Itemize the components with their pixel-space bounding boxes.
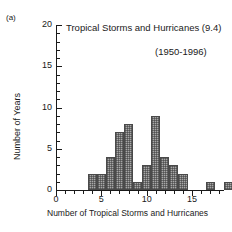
x-tick-8 [129,191,130,194]
y-tick-5 [57,149,62,150]
histogram-bar [206,182,215,190]
y-tick-14 [57,75,60,76]
x-tick-1 [65,191,66,194]
panel-label: (a) [6,13,16,22]
y-tick-7 [57,132,60,133]
histogram-bar [169,165,178,190]
x-tick-16 [201,191,202,194]
x-tick-label-5: 5 [91,194,111,204]
histogram-bar [115,132,124,190]
x-tick-12 [165,191,166,194]
y-tick-8 [57,124,60,125]
x-tick-label-15: 15 [182,194,202,204]
y-axis-title: Number of Years [12,93,22,160]
y-tick-20 [57,25,62,26]
histogram-figure: (a) Tropical Storms and Hurricanes (9.4)… [0,0,232,232]
x-tick-11 [156,191,157,194]
x-axis-line [56,190,224,191]
y-tick-13 [57,83,60,84]
y-tick-label-10: 10 [26,102,52,112]
y-tick-label-5: 5 [26,143,52,153]
y-tick-10 [57,108,62,109]
y-tick-2 [57,174,60,175]
x-tick-2 [74,191,75,194]
y-tick-9 [57,116,60,117]
histogram-bar [142,165,151,190]
histogram-bar [151,116,160,190]
histogram-bar [124,124,133,190]
y-tick-4 [57,157,60,158]
y-tick-12 [57,91,60,92]
y-tick-17 [57,50,60,51]
x-tick-17 [210,191,211,194]
y-tick-15 [57,66,62,67]
y-tick-16 [57,58,60,59]
y-tick-6 [57,141,60,142]
histogram-bar [224,182,232,190]
histogram-bar [133,182,142,190]
y-tick-18 [57,42,60,43]
x-tick-6 [110,191,111,194]
chart-annotation-period: (1950-1996) [155,46,207,57]
x-tick-7 [119,191,120,194]
chart-title: Tropical Storms and Hurricanes (9.4) [66,22,221,33]
y-tick-0 [57,190,62,191]
histogram-bar [160,157,169,190]
y-tick-label-15: 15 [26,60,52,70]
histogram-bar [178,174,187,191]
x-tick-18 [219,191,220,194]
x-tick-13 [174,191,175,194]
histogram-bar [97,174,106,191]
x-tick-3 [83,191,84,194]
y-tick-1 [57,182,60,183]
histogram-bar [88,174,97,191]
y-tick-3 [57,165,60,166]
y-tick-19 [57,33,60,34]
histogram-bar [106,157,115,190]
y-tick-11 [57,99,60,100]
y-tick-label-0: 0 [26,184,52,194]
y-tick-label-20: 20 [26,19,52,29]
x-tick-label-0: 0 [46,194,66,204]
x-tick-label-10: 10 [137,194,157,204]
x-axis-title: Number of Tropical Storms and Hurricanes [47,208,208,218]
